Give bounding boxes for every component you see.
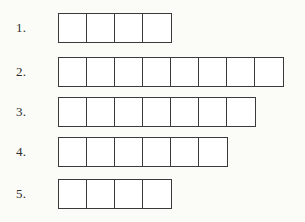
bar-cell[interactable] — [115, 14, 143, 42]
bar-cell[interactable] — [199, 138, 227, 166]
worksheet-canvas: 1.2.3.4.5. — [0, 0, 305, 222]
bar-cell[interactable] — [59, 14, 87, 42]
bar-cell[interactable] — [115, 138, 143, 166]
bar-cell[interactable] — [199, 58, 227, 86]
bar-cell[interactable] — [115, 98, 143, 126]
row-number-label: 5. — [16, 179, 50, 209]
row-number-label: 1. — [16, 13, 50, 43]
bar-cell[interactable] — [171, 98, 199, 126]
bar-cell[interactable] — [143, 180, 171, 208]
bar-strip — [58, 97, 256, 127]
bar-cell[interactable] — [87, 14, 115, 42]
bar-cell[interactable] — [59, 180, 87, 208]
bar-strip — [58, 13, 172, 43]
bar-cell[interactable] — [115, 58, 143, 86]
row-number-label: 4. — [16, 137, 50, 167]
row-number-label: 2. — [16, 57, 50, 87]
bar-cell[interactable] — [143, 14, 171, 42]
bar-cell[interactable] — [171, 58, 199, 86]
bar-strip — [58, 179, 172, 209]
bar-cell[interactable] — [255, 58, 283, 86]
bar-cell[interactable] — [143, 58, 171, 86]
bar-cell[interactable] — [59, 98, 87, 126]
bar-cell[interactable] — [87, 180, 115, 208]
bar-cell[interactable] — [227, 58, 255, 86]
bar-cell[interactable] — [171, 138, 199, 166]
bar-cell[interactable] — [87, 58, 115, 86]
row-number-label: 3. — [16, 97, 50, 127]
bar-cell[interactable] — [115, 180, 143, 208]
bar-cell[interactable] — [199, 98, 227, 126]
bar-cell[interactable] — [59, 58, 87, 86]
bar-cell[interactable] — [59, 138, 87, 166]
bar-strip — [58, 57, 284, 87]
bar-cell[interactable] — [87, 138, 115, 166]
bar-cell[interactable] — [227, 98, 255, 126]
bar-strip — [58, 137, 228, 167]
bar-cell[interactable] — [143, 138, 171, 166]
bar-cell[interactable] — [87, 98, 115, 126]
bar-cell[interactable] — [143, 98, 171, 126]
